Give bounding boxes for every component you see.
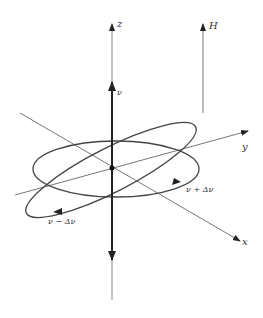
upper-sideband-label: ν + Δν xyxy=(186,185,213,194)
h-field-label: H xyxy=(208,20,218,31)
lower-sideband-label: ν − Δν xyxy=(48,217,75,226)
y-axis-label: y xyxy=(241,141,248,152)
nu-label: ν xyxy=(117,88,122,97)
z-axis-label: z xyxy=(116,18,123,29)
precession-diagram: z H ν y x ν + Δν ν − Δν xyxy=(0,0,263,318)
origin-point xyxy=(110,166,115,171)
orbit-arrow-upper-icon xyxy=(172,178,181,185)
x-axis-label: x xyxy=(242,236,248,247)
